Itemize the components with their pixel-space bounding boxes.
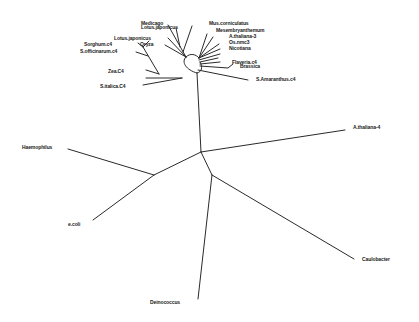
branch-fan-1	[176, 28, 180, 47]
branch-flaveria	[200, 64, 233, 68]
branch-left-node	[154, 152, 201, 175]
branch-mus	[199, 34, 207, 58]
label-amaranthus: S.Amaranthus.c4	[256, 77, 295, 82]
label-zea: Zea.C4	[108, 69, 124, 74]
branch-ecoli	[93, 175, 154, 220]
label-setaria: S.italica.C4	[100, 84, 125, 89]
label-nicotiana: Nicotiana	[229, 46, 251, 51]
label-s-officinarum: S.officinarum.c4	[80, 49, 117, 54]
label-athaliana-4: A.thaliana-4	[353, 125, 380, 130]
branch-amaranthus	[198, 70, 248, 80]
label-mus: Mus.corniculatus	[209, 21, 249, 26]
label-ecoli: e.coli	[68, 222, 80, 227]
phylogenetic-tree	[0, 0, 419, 322]
label-haemophilus: Haemophilus	[22, 145, 52, 150]
label-caulobacter: Caulobacter	[362, 257, 390, 262]
label-sorghum: Sorghum.c4	[84, 42, 112, 47]
branch-sorghum-group	[143, 47, 159, 74]
branch-mid2	[200, 62, 220, 64]
branch-caulobacter	[212, 175, 354, 259]
branch-setaria	[143, 78, 182, 85]
branch-haemophilus	[68, 149, 154, 175]
branch-deinococcus	[198, 175, 212, 299]
branch-trunk	[197, 73, 201, 152]
branch-central-down	[201, 152, 212, 175]
branch-athaliana4	[201, 130, 345, 152]
label-brassica: Brassica	[240, 64, 260, 69]
label-lotus-top: Lotus.japonicus	[141, 25, 178, 30]
branch-fan-2	[183, 26, 192, 52]
label-deinococcus: Deinococcus	[150, 300, 180, 305]
label-oryza: Oryza	[140, 42, 153, 47]
